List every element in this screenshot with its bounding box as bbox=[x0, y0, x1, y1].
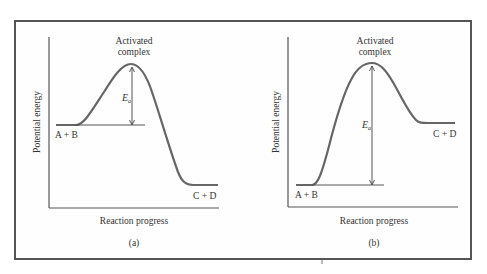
y-axis-label: Potential energy bbox=[32, 91, 42, 153]
activation-energy-label: Ea bbox=[121, 92, 131, 104]
x-axis-label: Reaction progress bbox=[340, 216, 409, 226]
peak-label-line1: Activated bbox=[116, 36, 153, 46]
peak-label-line2: complex bbox=[359, 47, 392, 57]
products-label: C + D bbox=[193, 191, 216, 201]
products-label: C + D bbox=[433, 129, 456, 139]
energy-diagrams: Ea Activated complex A + B C + D Reactio… bbox=[0, 0, 487, 274]
panel-b: Ea Activated complex A + B C + D Reactio… bbox=[271, 36, 458, 249]
panel-a: Ea Activated complex A + B C + D Reactio… bbox=[32, 36, 219, 249]
x-axis-label: Reaction progress bbox=[100, 216, 169, 226]
panel-caption: (a) bbox=[129, 238, 140, 249]
reactants-label: A + B bbox=[55, 130, 78, 140]
y-axis-label: Potential energy bbox=[271, 91, 281, 153]
peak-label-line1: Activated bbox=[357, 36, 394, 46]
energy-curve bbox=[56, 64, 218, 185]
peak-label-line2: complex bbox=[118, 47, 151, 57]
panel-caption: (b) bbox=[368, 238, 379, 249]
reactants-label: A + B bbox=[295, 190, 318, 200]
energy-curve bbox=[296, 63, 455, 185]
activation-energy-label: Ea bbox=[361, 119, 371, 131]
